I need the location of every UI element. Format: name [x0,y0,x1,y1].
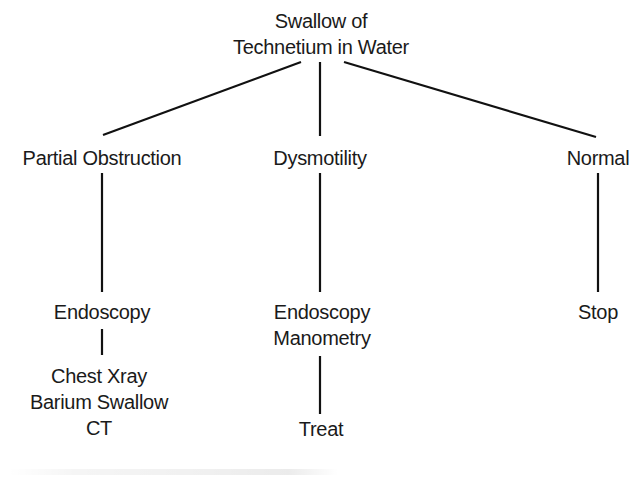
node-stop-label: Stop [578,299,618,325]
edge-root-partial [103,62,301,135]
node-imaging-line-1: Chest Xray [30,363,168,389]
scan-artifact [8,469,338,475]
node-root-line-2: Technetium in Water [233,34,409,60]
node-imaging: Chest Xray Barium Swallow CT [30,363,168,441]
node-normal: Normal [567,145,630,171]
node-stop: Stop [578,299,618,325]
edge-root-normal [344,62,596,137]
node-imaging-line-2: Barium Swallow [30,389,168,415]
node-endomano-line-2: Manometry [273,325,370,351]
node-treat-label: Treat [299,416,343,442]
node-treat: Treat [299,416,343,442]
node-endoscopy-manometry: Endoscopy Manometry [273,299,370,351]
node-partial-obstruction: Partial Obstruction [23,145,182,171]
node-endoscopy-left-label: Endoscopy [54,299,150,325]
node-dysmotility-label: Dysmotility [273,145,366,171]
node-endoscopy-left: Endoscopy [54,299,150,325]
node-root: Swallow of Technetium in Water [233,8,409,60]
node-imaging-line-3: CT [30,415,168,441]
node-endomano-line-1: Endoscopy [273,299,370,325]
node-dysmotility: Dysmotility [273,145,366,171]
node-root-line-1: Swallow of [233,8,409,34]
node-normal-label: Normal [567,145,630,171]
node-partial-label: Partial Obstruction [23,145,182,171]
